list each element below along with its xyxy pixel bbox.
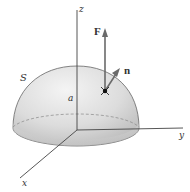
hemisphere-surface [13, 66, 139, 146]
radius-label: a [68, 94, 73, 103]
y-axis-label: y [179, 131, 184, 140]
x-axis-label: x [22, 179, 27, 188]
hemisphere-diagram: z y x S a F n [0, 0, 190, 192]
force-label: F [94, 26, 101, 37]
z-axis-label: z [79, 5, 84, 14]
surface-label: S [20, 73, 27, 83]
normal-label: n [124, 65, 130, 76]
